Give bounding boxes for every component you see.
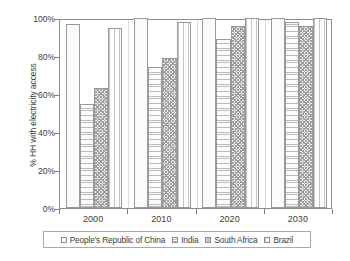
legend-swatch-icon bbox=[172, 237, 178, 243]
bar-south-africa-2010 bbox=[162, 58, 176, 208]
legend-label: South Africa bbox=[214, 235, 257, 245]
legend-item-south-africa[interactable]: South Africa bbox=[205, 235, 257, 245]
x-tick-mark bbox=[332, 209, 333, 214]
chart-figure: % HH with electricity access 0%20%40%60%… bbox=[0, 0, 350, 261]
y-tick-label: 100% bbox=[11, 14, 55, 24]
y-tick-label: 0% bbox=[11, 204, 55, 214]
group-separator bbox=[128, 20, 129, 208]
bar-people-s-republic-of-china-2030 bbox=[271, 18, 285, 208]
x-tick-mark bbox=[59, 209, 60, 214]
group-separator bbox=[265, 20, 266, 208]
bar-people-s-republic-of-china-2010 bbox=[134, 18, 148, 208]
legend-label: People's Republic of China bbox=[70, 235, 165, 245]
legend-swatch-icon bbox=[61, 237, 67, 243]
bar-brazil-2030 bbox=[313, 18, 327, 208]
legend-item-people-s-republic-of-china[interactable]: People's Republic of China bbox=[61, 235, 165, 245]
x-tick-mark bbox=[196, 209, 197, 214]
x-tick-mark bbox=[127, 209, 128, 214]
legend-item-brazil[interactable]: Brazil bbox=[264, 235, 293, 245]
bar-india-2020 bbox=[216, 39, 230, 208]
bar-india-2000 bbox=[80, 104, 94, 209]
y-tick-label: 60% bbox=[11, 90, 55, 100]
bar-brazil-2010 bbox=[177, 22, 191, 208]
group-separator bbox=[197, 20, 198, 208]
bar-people-s-republic-of-china-2020 bbox=[202, 18, 216, 208]
x-tick-label: 2000 bbox=[63, 214, 123, 224]
y-tick-label: 40% bbox=[11, 128, 55, 138]
legend-item-india[interactable]: India bbox=[172, 235, 198, 245]
y-tick-label: 20% bbox=[11, 166, 55, 176]
chart-legend: People's Republic of ChinaIndiaSouth Afr… bbox=[43, 231, 311, 248]
bar-south-africa-2030 bbox=[299, 26, 313, 208]
x-tick-label: 2010 bbox=[131, 214, 191, 224]
x-tick-mark bbox=[264, 209, 265, 214]
legend-label: India bbox=[181, 235, 198, 245]
bar-brazil-2020 bbox=[245, 18, 259, 208]
bar-india-2030 bbox=[285, 22, 299, 208]
x-tick-label: 2030 bbox=[268, 214, 328, 224]
bar-south-africa-2000 bbox=[94, 88, 108, 208]
legend-swatch-icon bbox=[205, 237, 211, 243]
bar-people-s-republic-of-china-2000 bbox=[66, 24, 80, 208]
plot-area bbox=[59, 19, 332, 209]
bar-india-2010 bbox=[148, 67, 162, 208]
y-tick-label: 80% bbox=[11, 52, 55, 62]
legend-swatch-icon bbox=[264, 237, 270, 243]
bar-south-africa-2020 bbox=[231, 26, 245, 208]
y-axis-title: % HH with electricity access bbox=[28, 20, 38, 210]
x-tick-label: 2020 bbox=[200, 214, 260, 224]
bar-brazil-2000 bbox=[108, 28, 122, 209]
legend-label: Brazil bbox=[273, 235, 293, 245]
